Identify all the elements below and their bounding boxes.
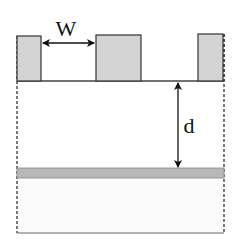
substrate-region — [17, 178, 224, 233]
middle-block — [96, 35, 141, 81]
width-label: W — [56, 16, 77, 41]
depth-label: d — [184, 113, 195, 138]
buried-layer-band — [17, 168, 224, 178]
diagram-canvas: W d — [0, 0, 239, 244]
right-block — [198, 34, 223, 81]
left-block — [17, 36, 41, 81]
